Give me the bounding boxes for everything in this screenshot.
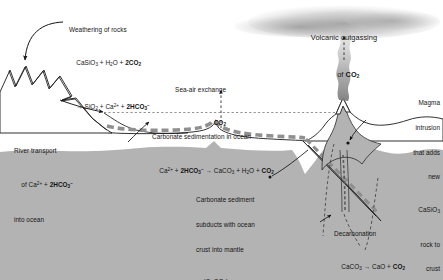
sea-air-line-2: CO2 [166, 111, 226, 138]
sed-ca: Ca [159, 167, 167, 174]
subduction-line-2: subducts with ocean [196, 221, 255, 229]
magma-line-2: intrusion [372, 124, 440, 132]
magma-casio3: CaSiO [418, 206, 437, 213]
weathering-sio2: → SiO [76, 103, 95, 110]
volcanic-of: of [337, 70, 345, 79]
sub-2sa: 2 [223, 122, 226, 127]
weathering-h2o-b: O + [113, 59, 125, 66]
river-ca: of Ca [21, 181, 37, 188]
weathering-ca: + Ca [98, 103, 114, 110]
river-2hco3: 2HCO [50, 181, 68, 188]
sea-air-co2: CO [214, 119, 224, 126]
magma-line-1: Magma [372, 99, 440, 107]
sub-2b: 2 [138, 62, 141, 67]
sup-minus: − [147, 103, 150, 108]
volcanic-co2: CO [346, 70, 357, 79]
subduction-line-3: crust into mantle [196, 246, 255, 254]
sub-2d: 2 [402, 266, 405, 271]
sub-2v: 2 [357, 74, 360, 79]
weathering-line-2: CaSiO3 + H2O + 2CO2 [69, 51, 150, 78]
label-river-transport: River transport of Ca2+ + 2HCO3− into oc… [14, 131, 73, 232]
decarb-co2: CO [393, 263, 403, 270]
label-sea-air-exchange: Sea-air exchange CO2 [166, 70, 226, 146]
decarb-cao: → CaO + [362, 263, 393, 270]
weathering-casio3: CaSiO [76, 59, 95, 66]
sub-2s2: 2 [271, 170, 274, 175]
volcanic-line-1: Volcanic outgassing [272, 33, 416, 42]
sed-h2o-b: O + [249, 167, 261, 174]
label-decarbonation: Decarbonation CaCO3 → CaO + CO2 then new… [334, 214, 407, 280]
sed-2hco3: 2HCO [180, 167, 198, 174]
subduction-line-1: Carbonate sediment [196, 196, 255, 204]
decarb-caco3: CaCO [341, 263, 359, 270]
sed-caco3: → CaCO [204, 167, 232, 174]
label-carbonate-subduction: Carbonate sediment subducts with ocean c… [196, 180, 255, 280]
magma-intrusion-dot [346, 141, 349, 144]
sed-co2: CO [262, 167, 272, 174]
sub-3m: 3 [437, 209, 440, 214]
magma-line-4: new [372, 173, 440, 181]
subduction-line-4: (CaCO3) [196, 270, 255, 280]
sup-minus-r: − [70, 181, 73, 186]
decarbonation-line-1: Decarbonation [334, 230, 407, 238]
river-line-1: River transport [14, 147, 73, 155]
weathering-2hco3: 2HCO [126, 103, 144, 110]
river-line-2: of Ca2+ + 2HCO3− [14, 172, 73, 200]
label-weathering: Weathering of rocks CaSiO3 + H2O + 2CO2 … [69, 10, 150, 130]
weathering-line-3: → SiO2 + Ca2+ + 2HCO3− [69, 94, 150, 122]
weathering-h2o-a: + H [98, 59, 110, 66]
river-plus: + [42, 181, 49, 188]
weathering-2co2: 2CO [125, 59, 138, 66]
magma-line-3: that adds [372, 149, 440, 157]
weathering-line-1: Weathering of rocks [69, 26, 150, 34]
decarbonation-line-2: CaCO3 → CaO + CO2 [334, 255, 407, 280]
sed-h2o-a: + H [234, 167, 246, 174]
river-line-3: into ocean [14, 216, 73, 224]
sea-air-line-1: Sea-air exchange [166, 86, 226, 94]
